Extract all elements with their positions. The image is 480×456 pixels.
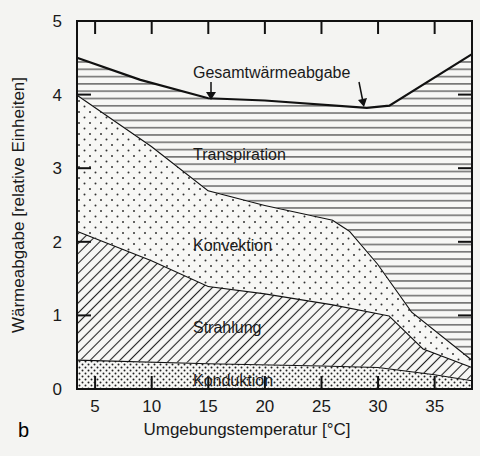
label-gesamtwaermeabgabe: Gesamtwärmeabgabe [193,64,351,81]
x-tick-label: 20 [255,397,274,416]
x-tick-label: 35 [425,397,444,416]
x-tick-label: 30 [369,397,388,416]
chart: 5101520253035012345 Gesamtwärmeabgabe Tr… [0,0,480,456]
y-tick-label: 0 [53,380,62,399]
arrow-right [358,82,367,107]
y-axis-label: Wärmeabgabe [relative Einheiten] [9,77,28,333]
x-tick-label: 5 [90,397,99,416]
y-tick-label: 3 [53,159,62,178]
x-tick-label: 25 [312,397,331,416]
stacked-areas [77,54,472,389]
y-tick-label: 2 [53,233,62,252]
y-tick-label: 4 [53,86,62,105]
label-konduktion: Konduktion [193,372,273,389]
label-konvektion: Konvektion [193,237,272,254]
x-tick-label: 15 [199,397,218,416]
x-axis-label: Umgebungstemperatur [°C] [143,420,350,439]
x-tick-label: 10 [142,397,161,416]
y-tick-label: 1 [53,306,62,325]
y-tick-label: 5 [53,12,62,31]
label-transpiration: Transpiration [193,146,286,163]
panel-label: b [18,419,29,441]
label-strahlung: Strahlung [193,319,262,336]
